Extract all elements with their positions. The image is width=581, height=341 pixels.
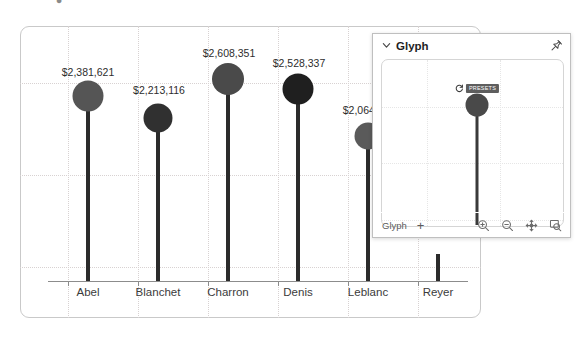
lollipop-stem[interactable] bbox=[156, 118, 160, 281]
lollipop-stem[interactable] bbox=[366, 136, 370, 281]
add-tab-button[interactable]: + bbox=[417, 219, 425, 232]
axis-tick bbox=[278, 281, 279, 286]
lollipop-marker[interactable] bbox=[283, 74, 314, 105]
glyph-tool-group bbox=[477, 219, 562, 232]
axis-tick bbox=[418, 281, 419, 286]
glyph-tab-label[interactable]: Glyph bbox=[382, 220, 407, 231]
lollipop-stem[interactable] bbox=[296, 89, 300, 281]
gridline-horizontal bbox=[382, 163, 563, 164]
lollipop-marker[interactable] bbox=[73, 81, 104, 112]
value-label: $2,608,351 bbox=[203, 47, 256, 59]
zoom-out-icon[interactable] bbox=[501, 219, 514, 232]
glyph-panel[interactable]: Glyph PRESETS bbox=[372, 33, 571, 238]
glyph-preview-canvas[interactable]: PRESETS bbox=[381, 59, 564, 227]
glyph-panel-title: Glyph bbox=[396, 40, 429, 52]
glyph-preview-annotation: PRESETS bbox=[455, 84, 499, 93]
glyph-preview-badge: PRESETS bbox=[466, 84, 499, 93]
gridline-vertical bbox=[348, 26, 349, 318]
top-cutoff-glyph: ● bbox=[53, 0, 65, 6]
gridline-vertical bbox=[500, 60, 501, 226]
glyph-panel-toolbar: Glyph + bbox=[373, 212, 570, 237]
value-label: $2,528,337 bbox=[273, 57, 326, 69]
category-label-denis: Denis bbox=[283, 286, 312, 298]
category-label-reyer: Reyer bbox=[423, 286, 454, 298]
category-label-abel: Abel bbox=[76, 286, 99, 298]
refresh-icon[interactable] bbox=[455, 84, 464, 93]
lollipop-stem[interactable] bbox=[86, 96, 90, 281]
zoom-in-icon[interactable] bbox=[477, 219, 490, 232]
gridline-vertical bbox=[138, 26, 139, 318]
chevron-down-icon[interactable] bbox=[380, 39, 393, 52]
lollipop-marker[interactable] bbox=[212, 63, 244, 95]
pan-icon[interactable] bbox=[525, 219, 538, 232]
pin-icon[interactable] bbox=[549, 38, 564, 53]
category-label-blanchet: Blanchet bbox=[136, 286, 181, 298]
gridline-vertical bbox=[278, 26, 279, 318]
lollipop-stem[interactable] bbox=[436, 254, 440, 281]
category-label-charron: Charron bbox=[207, 286, 249, 298]
glyph-panel-header[interactable]: Glyph bbox=[373, 34, 570, 57]
gridline-vertical bbox=[427, 60, 428, 226]
x-axis-line bbox=[48, 281, 468, 282]
value-label: $2,381,621 bbox=[62, 66, 115, 78]
zoom-to-selection-icon[interactable] bbox=[549, 219, 562, 232]
glyph-preview-stem[interactable] bbox=[476, 105, 479, 225]
category-label-leblanc: Leblanc bbox=[348, 286, 388, 298]
axis-tick bbox=[68, 281, 69, 286]
lollipop-stem[interactable] bbox=[226, 79, 230, 281]
value-label: $2,213,116 bbox=[133, 84, 185, 96]
lollipop-marker[interactable] bbox=[144, 104, 173, 133]
glyph-preview-marker[interactable] bbox=[466, 94, 489, 117]
gridline-vertical bbox=[208, 26, 209, 318]
